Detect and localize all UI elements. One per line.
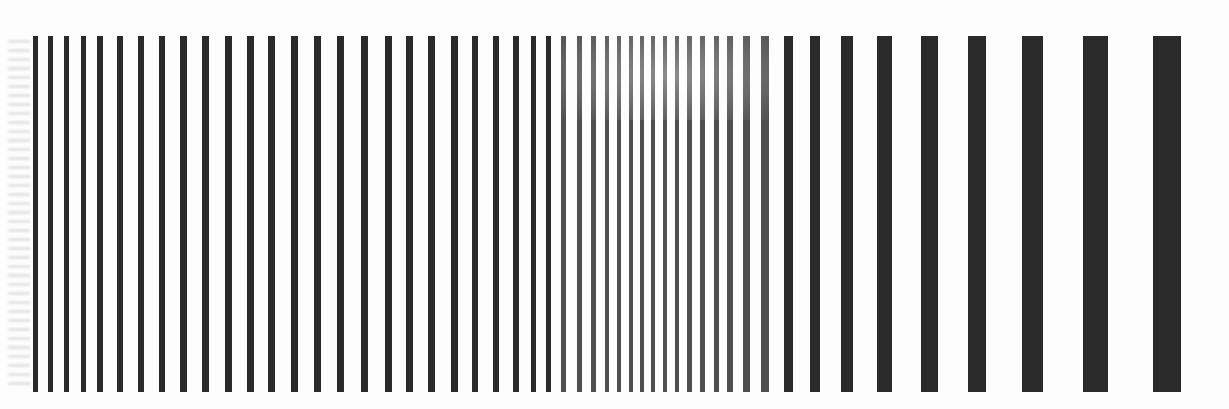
bar [1083,36,1108,392]
bar [1153,36,1181,392]
bar [97,36,103,392]
bar [64,36,69,392]
bar [385,36,392,392]
bar [268,36,275,392]
bar [921,36,938,392]
bar [180,36,187,392]
bar [513,36,519,392]
bar [493,36,499,392]
bar [138,36,144,392]
bar [33,36,38,392]
bar [784,36,793,392]
bar [472,36,478,392]
bar [337,36,344,392]
bar [841,36,853,392]
bar [428,36,435,392]
bar [531,36,536,392]
bar [291,36,298,392]
bar [159,36,165,392]
glare-highlight [560,30,780,120]
bar [451,36,458,392]
bar [247,36,254,392]
bar [117,36,123,392]
bar [810,36,820,392]
bar [406,36,413,392]
bar [877,36,892,392]
resolution-test-pattern [0,0,1229,409]
bar [225,36,232,392]
bar [361,36,368,392]
bar [202,36,209,392]
bar [314,36,321,392]
bar [81,36,86,392]
bar [48,36,53,392]
bar [968,36,986,392]
paper-edge-texture [8,40,30,390]
bar [546,36,551,392]
bar [1022,36,1043,392]
